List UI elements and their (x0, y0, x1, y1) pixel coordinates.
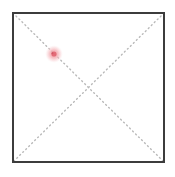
pink-cursor-marker (45, 45, 63, 63)
drawing-canvas (0, 0, 175, 177)
marker-core-highlight-icon (51, 52, 53, 54)
figure-svg (0, 0, 175, 177)
